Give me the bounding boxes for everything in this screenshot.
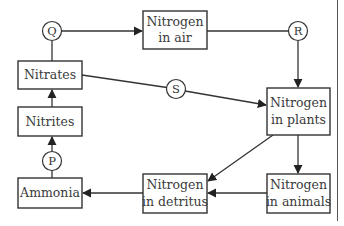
node-plants-line1: Nitrogen xyxy=(270,95,327,110)
process-s-label: S xyxy=(172,82,180,96)
process-p: P xyxy=(43,152,62,171)
edge-s-to-plants xyxy=(185,91,266,105)
node-nitrogen-in-plants: Nitrogen in plants xyxy=(267,88,330,135)
process-r: R xyxy=(289,22,308,41)
node-nitrites-label: Nitrites xyxy=(26,114,75,129)
process-s: S xyxy=(167,80,186,99)
process-r-label: R xyxy=(294,24,303,38)
edge-plants-to-detritus xyxy=(208,135,273,181)
process-p-label: P xyxy=(48,154,56,168)
edge-nitrates-to-s xyxy=(82,75,167,88)
node-animals-line1: Nitrogen xyxy=(270,177,327,192)
node-nitrites: Nitrites xyxy=(18,107,82,136)
process-q: Q xyxy=(43,22,62,41)
node-plants-line2: in plants xyxy=(271,112,326,127)
node-nitrogen-in-air: Nitrogen in air xyxy=(143,11,207,49)
node-air-line1: Nitrogen xyxy=(147,14,204,29)
node-nitrogen-in-detritus: Nitrogen in detritus xyxy=(142,174,208,213)
process-q-label: Q xyxy=(47,24,56,38)
node-nitrogen-in-animals: Nitrogen in animals xyxy=(266,174,331,213)
nitrogen-cycle-diagram: Q R S P Nitrogen in air Nitrates Nitrite… xyxy=(0,0,344,226)
node-air-line2: in air xyxy=(158,30,191,45)
node-animals-line2: in animals xyxy=(266,194,331,209)
node-nitrates: Nitrates xyxy=(18,61,82,89)
node-nitrates-label: Nitrates xyxy=(24,67,76,82)
node-detritus-line1: Nitrogen xyxy=(147,177,204,192)
node-ammonia: Ammonia xyxy=(18,178,82,208)
node-detritus-line2: in detritus xyxy=(142,194,208,209)
node-ammonia-label: Ammonia xyxy=(19,185,80,200)
